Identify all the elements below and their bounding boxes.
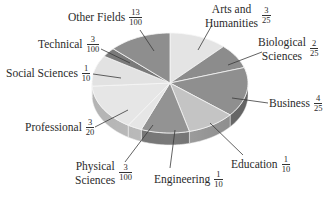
label-text: Business [269,97,310,109]
label-other-fields: Other Fields13100 [68,8,142,26]
fraction: 325 [262,6,271,24]
label-text: Sciences [262,50,302,62]
fraction: 110 [214,170,223,188]
label-technical: Technical3100 [38,35,99,53]
label-text: Humanities [205,17,258,29]
label-text: Professional [25,121,82,133]
label-biological-sciences: Biological Sciences 225 [258,35,318,62]
label-text: Sciences [75,174,115,186]
label-text: Technical [38,38,83,50]
fraction: 110 [282,155,291,173]
fraction: 3100 [87,35,100,53]
fraction: 3100 [119,163,132,181]
label-business: Business425 [269,94,322,112]
label-text: Engineering [154,173,210,185]
label-text: Other Fields [68,11,125,23]
label-text: Biological [258,36,306,48]
fraction: 110 [82,64,91,82]
label-education: Education110 [231,155,290,173]
label-text: Physical [76,160,115,172]
label-arts-humanities: Arts and Humanities 325 [205,2,271,29]
label-engineering: Engineering110 [154,170,223,188]
fraction: 425 [314,94,323,112]
label-text: Social Sciences [6,67,78,79]
label-text: Education [231,158,278,170]
label-text: Arts and [212,3,251,15]
label-social-sciences: Social Sciences110 [6,64,90,82]
fraction: 225 [310,39,319,57]
fraction: 13100 [129,8,142,26]
label-professional: Professional320 [25,118,94,136]
fraction: 320 [86,118,95,136]
label-physical-sciences: Physical Sciences 3100 [75,159,132,186]
pie-slices [92,33,248,133]
